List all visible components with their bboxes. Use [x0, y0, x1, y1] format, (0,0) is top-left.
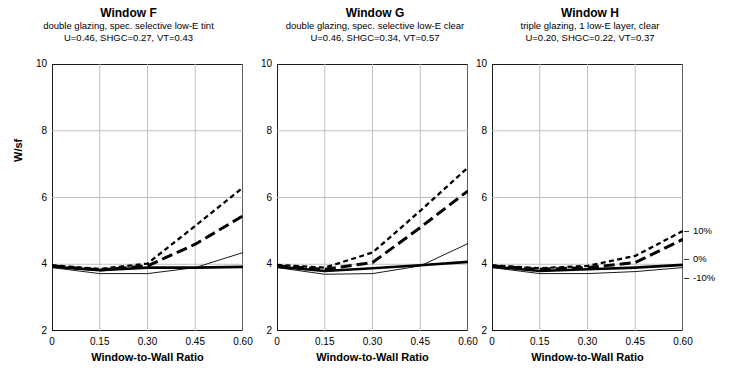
legend-label: -10%: [693, 273, 715, 283]
panel-g-titles: Window G double glazing, spec. selective…: [265, 6, 485, 44]
y-axis-label: W/sf: [12, 139, 24, 162]
x-tick-label: 0: [489, 337, 495, 347]
y-tick-label: 6: [266, 193, 272, 203]
panel-h-lines: [492, 64, 683, 331]
y-tick-label: 2: [266, 326, 272, 336]
panel-h-plot: 246810 00.150.300.450.60 Window-to-Wall …: [492, 64, 683, 331]
y-tick-label: 6: [41, 193, 47, 203]
panel-window-g: Window G double glazing, spec. selective…: [265, 0, 485, 381]
panel-g-subtitle-1: double glazing, spec. selective low-E cl…: [265, 20, 485, 32]
panel-f-lines: [52, 64, 243, 331]
panel-g-lines: [277, 64, 468, 331]
x-tick-label: 0.30: [578, 337, 597, 347]
panel-f-title: Window F: [0, 6, 265, 20]
x-tick-label: 0.45: [186, 337, 205, 347]
y-tick-label: 2: [41, 326, 47, 336]
y-tick-label: 4: [481, 259, 487, 269]
legend-tick: [684, 231, 689, 232]
panel-h-title: Window H: [485, 6, 695, 20]
legend-tick: [684, 259, 689, 260]
x-tick-label: 0: [49, 337, 55, 347]
panel-f-x-axis-label: Window-to-Wall Ratio: [52, 351, 243, 363]
y-tick-label: 8: [266, 126, 272, 136]
y-tick-label: 10: [261, 59, 272, 69]
panel-f-subtitle-2: U=0.46, SHGC=0.27, VT=0.43: [0, 32, 265, 44]
y-tick-label: 2: [481, 326, 487, 336]
x-tick-label: 0: [274, 337, 280, 347]
x-tick-label: 0.15: [530, 337, 549, 347]
panel-f-titles: Window F double glazing, spec. selective…: [0, 6, 265, 44]
y-tick-label: 8: [481, 126, 487, 136]
x-tick-label: 0.60: [233, 337, 252, 347]
panel-window-h: Window H triple glazing, 1 low-E layer, …: [485, 0, 743, 381]
y-tick-label: 4: [266, 259, 272, 269]
y-tick-label: 10: [476, 59, 487, 69]
panel-g-title: Window G: [265, 6, 485, 20]
y-tick-label: 6: [481, 193, 487, 203]
panel-g-plot: 246810 00.150.300.450.60 Window-to-Wall …: [277, 64, 468, 331]
x-tick-label: 0.30: [363, 337, 382, 347]
panel-h-x-axis-label: Window-to-Wall Ratio: [492, 351, 683, 363]
x-tick-label: 0.60: [458, 337, 477, 347]
x-tick-label: 0.15: [90, 337, 109, 347]
legend-label: 10%: [693, 226, 712, 236]
panel-h-subtitle-1: triple glazing, 1 low-E layer, clear: [485, 20, 695, 32]
x-tick-label: 0.45: [626, 337, 645, 347]
panel-g-subtitle-2: U=0.46, SHGC=0.34, VT=0.57: [265, 32, 485, 44]
chart-panels: Window F double glazing, spec. selective…: [0, 0, 743, 381]
y-tick-label: 4: [41, 259, 47, 269]
y-tick-label: 8: [41, 126, 47, 136]
panel-f-subtitle-1: double glazing, spec. selective low-E ti…: [0, 20, 265, 32]
panel-h-titles: Window H triple glazing, 1 low-E layer, …: [485, 6, 695, 44]
x-tick-label: 0.45: [411, 337, 430, 347]
legend-tick: [684, 278, 689, 279]
x-tick-label: 0.15: [315, 337, 334, 347]
panel-f-plot: 246810 00.150.300.450.60 Window-to-Wall …: [52, 64, 243, 331]
panel-window-f: Window F double glazing, spec. selective…: [0, 0, 265, 381]
panel-h-subtitle-2: U=0.20, SHGC=0.22, VT=0.37: [485, 32, 695, 44]
x-tick-label: 0.30: [138, 337, 157, 347]
x-tick-label: 0.60: [673, 337, 692, 347]
y-tick-label: 10: [36, 59, 47, 69]
panel-g-x-axis-label: Window-to-Wall Ratio: [277, 351, 468, 363]
legend-label: 0%: [693, 254, 707, 264]
